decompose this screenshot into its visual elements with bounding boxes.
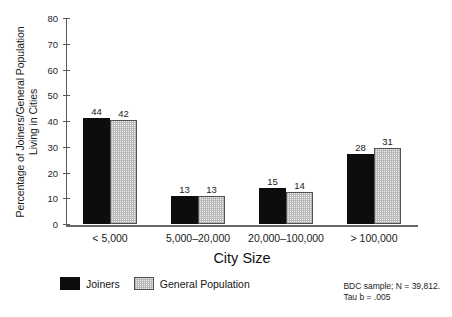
y-axis-tick-label: 0 [20,219,58,230]
bar-general-population: 14 [286,192,313,224]
solid-black-swatch-icon [60,277,80,290]
y-axis-tick-label: 50 [20,90,58,101]
bar-value-label: 13 [179,184,190,195]
x-axis-tick-label: > 100,000 [350,232,397,244]
legend-label-joiners: Joiners [86,278,120,290]
bar-general-population: 31 [374,148,401,224]
y-axis-tick [63,70,70,71]
chart-legend: Joiners General Population [60,277,250,290]
hatched-gray-swatch-icon [134,277,154,290]
bar-joiners: 44 [83,118,110,224]
y-axis-tick [63,95,70,96]
bar-value-label: 14 [294,180,305,191]
y-axis-tick [63,173,70,174]
y-axis-tick [63,224,70,225]
bar-value-label: 28 [355,142,366,153]
x-axis-title: City Size [66,250,418,266]
y-axis-tick-label: 40 [20,116,58,127]
y-axis-tick [63,18,70,19]
y-axis-line [66,18,67,226]
y-axis-tick-label: 60 [20,64,58,75]
y-axis-tick-label: 70 [20,38,58,49]
bar-value-label: 42 [118,108,129,119]
y-axis-tick [63,198,70,199]
x-axis-tick-label: < 5,000 [92,232,127,244]
y-axis-tick-label: 30 [20,141,58,152]
legend-item-joiners: Joiners [60,277,120,290]
bar-joiners: 13 [171,196,198,224]
legend-item-general-population: General Population [134,277,250,290]
footnote-line-1: BDC sample; N = 39,812. [343,281,440,292]
bar-value-label: 15 [267,176,278,187]
bar-joiners: 15 [259,188,286,224]
y-axis-tick [63,121,70,122]
legend-label-general-population: General Population [160,278,250,290]
y-axis-tick-label: 80 [20,13,58,24]
y-axis-tick [63,147,70,148]
bar-value-label: 44 [91,106,102,117]
x-axis-line [66,225,418,227]
y-axis-tick-label: 10 [20,193,58,204]
y-axis-tick-label: 20 [20,167,58,178]
y-axis-tick [63,44,70,45]
footnote-line-2: Tau b = .005 [343,292,440,303]
x-axis-tick-label: 5,000–20,000 [166,232,230,244]
plot-area: 01020304050607080 4442131315142831 < 5,0… [66,18,418,226]
bar-general-population: 13 [198,196,225,224]
bar-value-label: 31 [382,136,393,147]
x-axis-tick-label: 20,000–100,000 [248,232,324,244]
bar-general-population: 42 [110,120,137,224]
chart-footnote: BDC sample; N = 39,812. Tau b = .005 [343,281,440,303]
bar-joiners: 28 [347,154,374,224]
bar-chart-figure: Percentage of Joiners/General Population… [0,0,452,317]
bar-value-label: 13 [206,184,217,195]
